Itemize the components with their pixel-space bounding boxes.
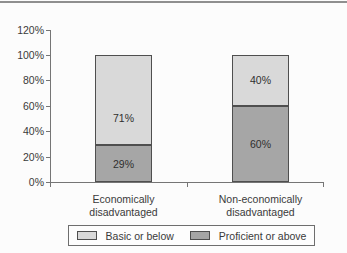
category-label: Non-economically disadvantaged [196, 193, 326, 219]
legend-box: Basic or belowProficient or above [68, 225, 315, 246]
y-axis-tick [46, 55, 50, 56]
y-axis-tick [46, 131, 50, 132]
bar-segment: 40% [232, 55, 289, 106]
y-axis-tick-label: 120% [8, 24, 44, 36]
top-divider-line [0, 1, 347, 3]
y-axis-tick [46, 80, 50, 81]
legend-label: Proficient or above [219, 230, 307, 242]
x-axis-tick [50, 182, 51, 187]
y-axis-line [50, 30, 51, 183]
figure-canvas: 0%20%40%60%80%100%120%29%71%Economically… [0, 0, 347, 253]
y-axis-tick-label: 60% [8, 100, 44, 112]
legend-entry: Basic or below [77, 230, 174, 242]
y-axis-tick [46, 157, 50, 158]
y-axis-tick [46, 106, 50, 107]
x-axis-tick [323, 182, 324, 187]
legend-entry: Proficient or above [190, 230, 307, 242]
legend-swatch [77, 231, 97, 240]
bar-segment-label: 29% [113, 158, 134, 170]
bar-segment-label: 71% [113, 112, 134, 124]
y-axis-tick-label: 80% [8, 74, 44, 86]
bar-segment: 29% [95, 145, 152, 182]
y-axis-tick-label: 100% [8, 49, 44, 61]
x-axis-tick [187, 182, 188, 187]
bar-segment-label: 40% [250, 74, 271, 86]
y-axis-tick-label: 0% [8, 176, 44, 188]
legend-label: Basic or below [106, 230, 174, 242]
bar-segment: 71% [95, 55, 152, 145]
y-axis-tick-label: 40% [8, 125, 44, 137]
bar-segment: 60% [232, 106, 289, 182]
bar-segment-label: 60% [250, 138, 271, 150]
category-label: Economically disadvantaged [59, 193, 189, 219]
y-axis-tick [46, 30, 50, 31]
y-axis-tick-label: 20% [8, 151, 44, 163]
legend-swatch [190, 231, 210, 240]
